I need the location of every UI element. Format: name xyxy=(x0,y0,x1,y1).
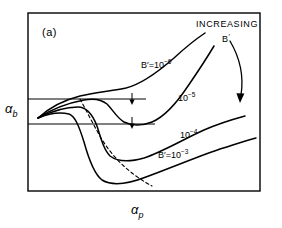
curve-label-1e-5-mantissa: 10 xyxy=(178,93,188,103)
curve-label-1e-5-exponent: −5 xyxy=(188,91,196,98)
y-axis-label-sub: b xyxy=(12,109,17,119)
increasing-annotation-line1: INCREASING xyxy=(196,19,258,29)
figure-root: (a) INCREASING B′ xyxy=(0,0,282,228)
curve-label-1e-3-mantissa: 10 xyxy=(171,150,181,160)
curve-label-1e-3-prefix: B′= xyxy=(158,150,171,160)
curve-label-1e-4-mantissa: 10 xyxy=(180,130,190,140)
curve-label-1e-4-exponent: −4 xyxy=(190,128,198,135)
x-axis-label-sub: p xyxy=(137,210,143,220)
scientific-figure: (a) INCREASING B′ xyxy=(0,0,282,228)
annotation-prime-symbol: ′ xyxy=(229,33,231,40)
y-axis-label: αb xyxy=(5,101,17,119)
annotation-b-symbol: B xyxy=(222,34,229,44)
curve-label-1e-3-exponent: −3 xyxy=(181,148,189,155)
curve-label-1e-6-exponent: −6 xyxy=(164,58,172,65)
panel-label: (a) xyxy=(42,26,57,38)
curve-label-1e-6-mantissa: 10 xyxy=(154,60,164,70)
curve-label-1e-6-prefix: B′= xyxy=(141,60,154,70)
x-axis-label: αp xyxy=(131,202,143,220)
